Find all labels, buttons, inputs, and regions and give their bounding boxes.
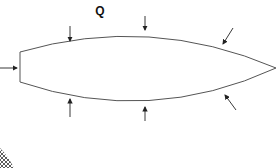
pressure-diagram: Q	[0, 0, 278, 168]
arrow-bottom-right-icon	[225, 95, 236, 110]
top-edge	[20, 36, 276, 68]
arrow-top-right-icon	[223, 28, 233, 44]
lens-body	[20, 36, 276, 101]
pressure-arrows	[0, 16, 236, 121]
label-q: Q	[95, 4, 104, 18]
hatched-region	[0, 148, 14, 168]
bottom-edge	[20, 68, 276, 101]
